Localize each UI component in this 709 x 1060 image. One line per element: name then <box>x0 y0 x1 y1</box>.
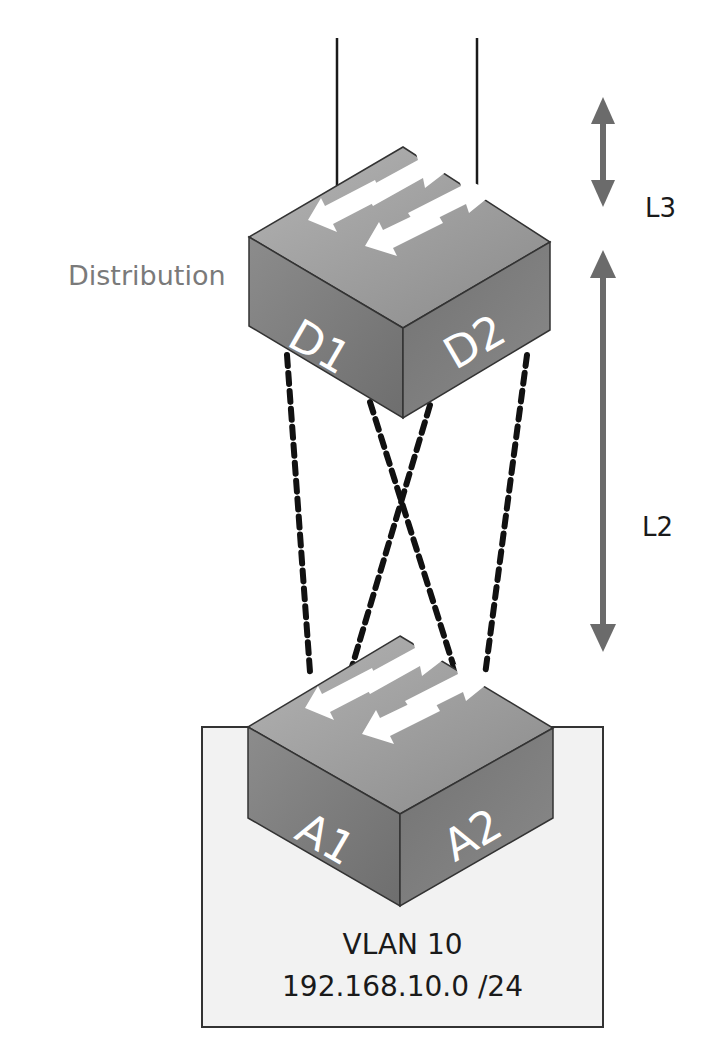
tier-label-distribution: Distribution <box>68 260 226 291</box>
vlan-name: VLAN 10 <box>202 928 603 961</box>
l2-double-arrow-icon <box>590 250 616 652</box>
link-d1-a1 <box>287 355 310 672</box>
distribution-switch: D1 D2 <box>249 147 550 418</box>
link-d2-a2 <box>485 355 527 675</box>
layer-label-l2: L2 <box>642 512 673 542</box>
link-d1-a2 <box>370 402 458 680</box>
vlan-subnet: 192.168.10.0 /24 <box>202 970 603 1003</box>
network-diagram: D1 D2 A1 A2 <box>0 0 709 1060</box>
l3-double-arrow-icon <box>591 97 615 207</box>
link-d2-a1 <box>348 405 430 680</box>
layer-label-l3: L3 <box>645 193 676 223</box>
